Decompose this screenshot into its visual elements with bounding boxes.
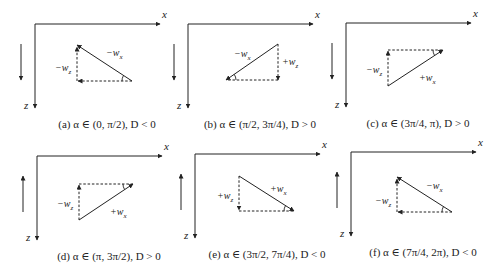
panel-caption-e: (e) α ∈ (3π/2, 7π/4), D < 0: [208, 248, 325, 261]
vector-label-wx: +wx: [110, 206, 127, 220]
panel-caption-f: (f) α ∈ (7π/4, 2π), D < 0: [369, 246, 476, 259]
z-axis-label: z: [24, 99, 28, 111]
panel-d: [23, 156, 162, 240]
panel-caption-d: (d) α ∈ (π, 3π/2), D > 0: [57, 250, 161, 263]
vector-label-wx: −wx: [234, 48, 251, 62]
angle-alpha-arc: [123, 184, 125, 190]
panel-e: [181, 154, 320, 238]
vector-label-wx: −wx: [106, 47, 123, 61]
z-axis-label: z: [335, 98, 339, 110]
angle-alpha-arc: [234, 74, 236, 80]
panel-caption-a: (a) α ∈ (0, π/2), D < 0: [58, 118, 155, 131]
x-axis-label: x: [473, 7, 478, 19]
x-axis-label: x: [164, 140, 169, 152]
angle-alpha-arc: [284, 206, 286, 212]
z-axis-label: z: [26, 231, 30, 243]
panel-caption-c: (c) α ∈ (3π/4, π), D > 0: [366, 117, 469, 130]
vector-label-wx: −wx: [426, 180, 443, 194]
vector-label-wz: −wz: [366, 64, 382, 78]
panel-f: [337, 152, 476, 236]
z-axis-label: z: [184, 229, 188, 241]
wx-vector: [77, 45, 132, 81]
z-axis-label: z: [177, 99, 181, 111]
vector-label-wz: +wz: [217, 190, 233, 204]
vector-label-wx: +wx: [419, 72, 436, 86]
vector-label-wz: −wz: [55, 62, 71, 76]
wx-vector: [397, 177, 452, 212]
x-axis-label: x: [322, 138, 327, 150]
x-axis-label: x: [315, 8, 320, 20]
angle-alpha-arc: [433, 50, 435, 56]
x-axis-label: x: [162, 8, 167, 20]
z-axis-label: z: [340, 227, 344, 239]
panel-a: [21, 24, 160, 108]
panel-caption-b: (b) α ∈ (π/2, 3π/4), D > 0: [204, 118, 316, 131]
angle-alpha-arc: [122, 76, 123, 81]
panel-c: [332, 23, 471, 107]
x-axis-label: x: [478, 136, 483, 148]
vector-label-wz: +wz: [282, 56, 298, 70]
vector-label-wx: +wx: [270, 183, 287, 197]
angle-alpha-arc: [442, 207, 443, 212]
vector-diagram-canvas: [0, 0, 495, 272]
vector-label-wz: −wz: [57, 198, 73, 212]
vector-label-wz: −wz: [375, 195, 391, 209]
